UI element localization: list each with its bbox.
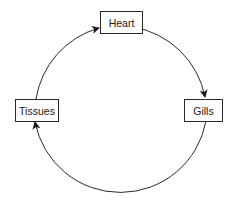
circulation-cycle-diagram: Heart Gills Tissues xyxy=(0,0,242,211)
arrow-gills-to-tissues xyxy=(35,121,206,192)
node-heart-label: Heart xyxy=(109,17,135,29)
arrow-tissues-to-heart xyxy=(36,28,99,99)
node-tissues-label: Tissues xyxy=(19,105,55,117)
node-tissues: Tissues xyxy=(15,99,59,122)
node-heart: Heart xyxy=(100,11,143,34)
node-gills-label: Gills xyxy=(193,105,213,117)
node-gills: Gills xyxy=(184,99,223,122)
arrow-heart-to-gills xyxy=(133,27,205,97)
